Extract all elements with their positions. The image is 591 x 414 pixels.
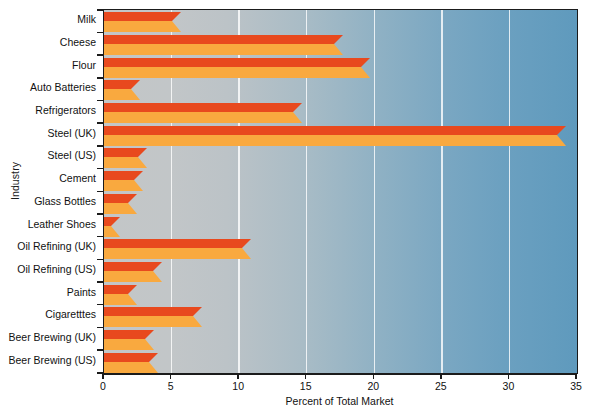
x-tick-20 xyxy=(373,373,375,379)
x-tick-15 xyxy=(305,373,307,379)
bar-cement xyxy=(104,171,143,191)
bar-front-face xyxy=(104,44,334,55)
bar-bevel-top xyxy=(138,148,147,157)
y-tick xyxy=(97,259,103,261)
bar-bevel-top xyxy=(134,171,143,180)
x-tick-35 xyxy=(575,373,577,379)
bar-top-face xyxy=(104,285,128,294)
bar-front-face xyxy=(104,339,145,350)
x-tick-label-5: 5 xyxy=(168,380,174,392)
bar-front-face xyxy=(104,271,153,282)
category-label: Steel (US) xyxy=(0,150,96,161)
category-label: Paints xyxy=(0,287,96,298)
bar-front-face xyxy=(104,180,134,191)
bar-oil-refining-uk xyxy=(104,239,251,259)
bar-bevel-top xyxy=(149,353,158,362)
bar-bevel-front xyxy=(138,157,147,168)
bar-bevel-front xyxy=(134,180,143,191)
category-label: Milk xyxy=(0,14,96,25)
x-tick-5 xyxy=(170,373,172,379)
bar-front-face xyxy=(104,157,138,168)
bar-front-face xyxy=(104,203,128,214)
category-label: Oil Refining (UK) xyxy=(0,241,96,252)
bar-bevel-end xyxy=(172,12,181,32)
bar-bevel-top xyxy=(111,217,120,226)
bar-bevel-top xyxy=(293,103,302,112)
bar-glass-bottles xyxy=(104,194,137,214)
bar-beer-brewing-uk xyxy=(104,330,154,350)
x-tick-label-15: 15 xyxy=(300,380,312,392)
bar-bevel-end xyxy=(128,285,137,305)
y-tick xyxy=(97,281,103,283)
x-tick-label-30: 30 xyxy=(503,380,515,392)
category-label: Auto Batteries xyxy=(0,82,96,93)
bar-bevel-top xyxy=(334,35,343,44)
category-label: Cigaretttes xyxy=(0,309,96,320)
x-tick-label-0: 0 xyxy=(100,380,106,392)
y-axis-category-labels: MilkCheeseFlourAuto BatteriesRefrigerato… xyxy=(0,9,100,372)
category-label: Beer Brewing (US) xyxy=(0,355,96,366)
category-label: Flour xyxy=(0,60,96,71)
bar-bevel-front xyxy=(111,226,120,237)
x-tick-label-25: 25 xyxy=(435,380,447,392)
y-tick xyxy=(97,349,103,351)
x-tick-30 xyxy=(508,373,510,379)
bar-refrigerators xyxy=(104,103,302,123)
y-tick xyxy=(97,32,103,34)
y-tick xyxy=(97,372,103,374)
bar-top-face xyxy=(104,353,149,362)
bar-top-face xyxy=(104,148,138,157)
category-label: Cement xyxy=(0,173,96,184)
x-tick-label-35: 35 xyxy=(570,380,582,392)
bar-top-face xyxy=(104,239,242,248)
y-tick xyxy=(97,122,103,124)
y-tick xyxy=(97,236,103,238)
bar-bevel-front xyxy=(131,89,140,100)
bar-bevel-end xyxy=(242,239,251,259)
x-axis-title: Percent of Total Market xyxy=(103,395,576,407)
bar-front-face xyxy=(104,226,111,237)
bar-bevel-front xyxy=(145,339,154,350)
bar-top-face xyxy=(104,126,557,135)
bar-leather-shoes xyxy=(104,217,120,237)
horizontal-bar-chart: Industry MilkCheeseFlourAuto BatteriesRe… xyxy=(0,0,591,414)
category-label: Cheese xyxy=(0,37,96,48)
bar-auto-batteries xyxy=(104,80,140,100)
bar-bevel-end xyxy=(361,58,370,78)
bar-top-face xyxy=(104,35,334,44)
bar-bevel-end xyxy=(193,307,202,327)
bar-beer-brewing-us xyxy=(104,353,158,373)
x-tick-10 xyxy=(237,373,239,379)
y-tick xyxy=(97,145,103,147)
y-tick xyxy=(97,168,103,170)
y-tick xyxy=(97,100,103,102)
category-label: Steel (UK) xyxy=(0,128,96,139)
bar-front-face xyxy=(104,112,293,123)
bar-bevel-front xyxy=(193,316,202,327)
bar-front-face xyxy=(104,21,172,32)
category-label: Oil Refining (US) xyxy=(0,264,96,275)
bar-bevel-top xyxy=(172,12,181,21)
bar-top-face xyxy=(104,330,145,339)
bar-bevel-end xyxy=(128,194,137,214)
bar-top-face xyxy=(104,12,172,21)
y-tick xyxy=(97,191,103,193)
bar-bevel-top xyxy=(128,194,137,203)
bar-bevel-end xyxy=(111,217,120,237)
bar-bevel-top xyxy=(153,262,162,271)
bar-front-face xyxy=(104,362,149,373)
bar-front-face xyxy=(104,89,131,100)
bar-bevel-end xyxy=(334,35,343,55)
bar-bevel-end xyxy=(134,171,143,191)
category-label: Leather Shoes xyxy=(0,219,96,230)
bar-front-face xyxy=(104,67,361,78)
bar-bevel-front xyxy=(334,44,343,55)
y-tick xyxy=(97,77,103,79)
bar-top-face xyxy=(104,194,128,203)
category-label: Beer Brewing (UK) xyxy=(0,332,96,343)
bar-front-face xyxy=(104,316,193,327)
bar-bevel-front xyxy=(361,67,370,78)
bar-steel-us xyxy=(104,148,147,168)
bar-front-face xyxy=(104,294,128,305)
bar-top-face xyxy=(104,307,193,316)
